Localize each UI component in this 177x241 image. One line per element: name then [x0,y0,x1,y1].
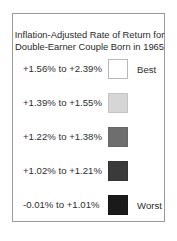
legend-tag-worst: Worst [137,200,162,211]
legend-range: +1.22% to +1.38% [23,131,102,142]
legend-swatch [108,93,128,113]
legend-item-best: +1.56% to +2.39% Best [13,59,166,81]
legend-title: Inflation-Adjusted Rate of Return for Do… [13,29,166,53]
legend-title-line2: Double-Earner Couple Born in 1965 [13,41,166,53]
legend-item-worst: -0.01% to +1.01% Worst [13,195,166,217]
legend-title-line1: Inflation-Adjusted Rate of Return for [13,29,166,41]
legend-item-2: +1.39% to +1.55% [13,93,166,115]
legend-item-3: +1.22% to +1.38% [13,127,166,149]
legend-swatch [108,161,128,181]
legend-swatch [108,127,128,147]
legend-swatch [108,195,128,215]
choropleth-legend: Inflation-Adjusted Rate of Return for Do… [12,13,165,222]
legend-range: +1.39% to +1.55% [23,97,102,108]
legend-tag-best: Best [137,64,156,75]
legend-swatch [108,59,128,79]
legend-range: +1.56% to +2.39% [23,63,102,74]
legend-range: +1.02% to +1.21% [23,165,102,176]
legend-range: -0.01% to +1.01% [23,199,100,210]
legend-item-4: +1.02% to +1.21% [13,161,166,183]
